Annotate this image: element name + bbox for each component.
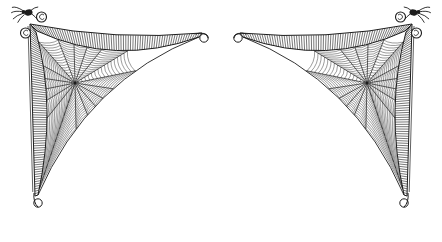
orb-web-threads	[38, 37, 199, 195]
right-corner-web	[234, 7, 431, 207]
spider-leg	[12, 11, 23, 12]
corner-curl-lower	[21, 28, 31, 38]
spider	[12, 7, 38, 22]
corner-spiderweb-illustration	[0, 0, 442, 242]
spider-leg	[12, 7, 23, 11]
spider-leg	[13, 13, 23, 18]
corner-curl-upper	[37, 12, 47, 22]
spider-leg	[18, 15, 24, 23]
left-corner-web	[12, 7, 209, 207]
web-outer-edge	[38, 37, 199, 195]
spider-leg	[32, 7, 38, 10]
web-hub	[74, 82, 76, 84]
corner-web-canvas	[0, 0, 442, 242]
web-spoke	[58, 39, 75, 83]
